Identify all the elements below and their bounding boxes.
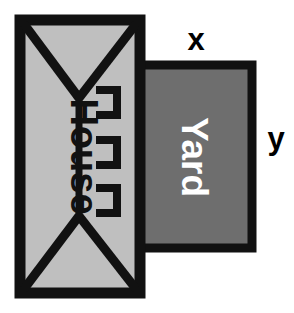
diagram-canvas: House Yard x y — [0, 0, 294, 313]
house-shape — [20, 20, 140, 293]
height-label: y — [261, 121, 291, 157]
yard-rectangle — [136, 65, 252, 248]
width-label: x — [176, 22, 216, 58]
house-yard-diagram — [0, 0, 294, 313]
yard-shape — [136, 65, 252, 248]
